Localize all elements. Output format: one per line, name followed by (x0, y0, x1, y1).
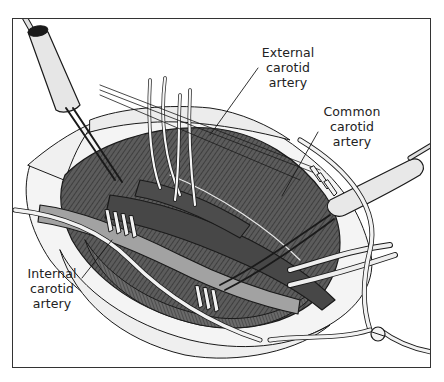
label-common-carotid-artery: Common carotid artery (312, 104, 392, 149)
surgical-illustration (0, 0, 444, 382)
label-internal-carotid-artery: Internal carotid artery (22, 266, 82, 311)
label-external-carotid-artery: External carotid artery (248, 45, 328, 90)
